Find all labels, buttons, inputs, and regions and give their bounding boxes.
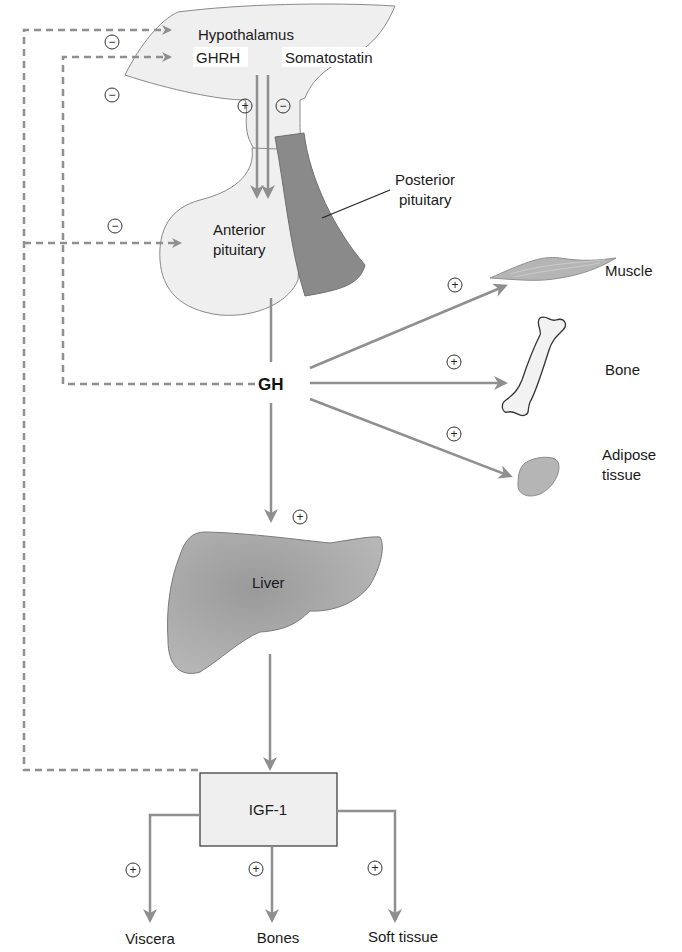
svg-text:−: − [111,219,118,233]
svg-text:+: + [450,427,457,441]
igf1-to-soft-tissue-arrow [337,811,395,920]
svg-text:+: + [450,355,457,369]
posterior-pituitary-leader [322,190,390,218]
bone-label: Bone [605,361,640,378]
gh-label: GH [258,375,284,394]
svg-text:+: + [252,862,259,876]
svg-text:−: − [108,88,115,102]
gh-to-muscle-arrow [310,286,505,368]
adipose-label-2: tissue [602,466,641,483]
igf1-to-viscera-arrow [150,815,200,920]
muscle-label: Muscle [605,262,653,279]
gh-axis-diagram: Hypothalamus GHRH Somatostatin + − Anter… [0,0,682,952]
hypothalamus-label: Hypothalamus [198,26,294,43]
adipose-tissue-icon [518,457,559,496]
soft-tissue-label: Soft tissue [368,928,438,945]
svg-text:+: + [129,863,136,877]
muscle-icon [490,257,616,280]
ghrh-label: GHRH [196,49,240,66]
anterior-pituitary-label-1: Anterior [213,221,266,238]
feedback-lines [24,30,255,770]
svg-text:+: + [296,510,303,524]
svg-text:+: + [241,99,248,113]
svg-text:−: − [279,99,286,113]
svg-text:+: + [451,278,458,292]
svg-text:−: − [108,35,115,49]
viscera-label: Viscera [125,930,175,947]
igf1-label: IGF-1 [249,801,287,818]
anterior-pituitary-label-2: pituitary [213,241,266,258]
bones-label: Bones [257,929,300,946]
bone-icon [502,317,565,416]
somatostatin-label: Somatostatin [285,49,373,66]
posterior-pituitary-label-1: Posterior [395,171,455,188]
posterior-pituitary-label-2: pituitary [399,191,452,208]
gh-to-adipose-arrow [310,399,510,476]
svg-text:+: + [371,861,378,875]
liver-shape [168,532,383,673]
liver-label: Liver [252,574,285,591]
adipose-label-1: Adipose [602,446,656,463]
